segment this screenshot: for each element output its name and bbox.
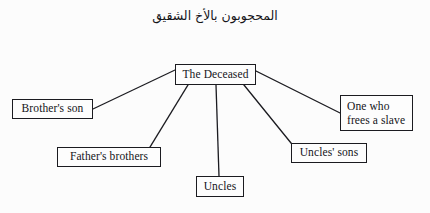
- node-brothers-son[interactable]: Brother's son: [12, 99, 93, 119]
- node-uncles-sons[interactable]: Uncles' sons: [291, 143, 367, 163]
- edge-deceased-brothers-son: [93, 70, 175, 109]
- node-one-who-frees-a-slave[interactable]: One who frees a slave: [340, 95, 413, 131]
- diagram-canvas: المحجوبون بالأخ الشقيق The Deceased Brot…: [0, 0, 430, 213]
- edge-deceased-one-who-frees: [256, 71, 340, 113]
- edge-deceased-uncles-sons: [244, 85, 291, 143]
- edge-deceased-fathers-brothers: [150, 85, 188, 147]
- node-fathers-brothers[interactable]: Father's brothers: [57, 147, 161, 167]
- node-the-deceased[interactable]: The Deceased: [175, 64, 256, 85]
- edge-deceased-uncles: [216, 85, 219, 176]
- node-uncles[interactable]: Uncles: [196, 176, 244, 197]
